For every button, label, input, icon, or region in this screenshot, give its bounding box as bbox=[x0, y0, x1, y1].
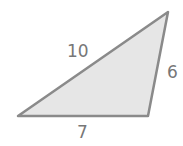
side-label-7: 7 bbox=[77, 122, 88, 142]
triangle-diagram: 10 6 7 bbox=[0, 0, 183, 146]
triangle-shape bbox=[18, 12, 168, 116]
side-label-6: 6 bbox=[167, 62, 178, 82]
side-label-10: 10 bbox=[67, 41, 89, 61]
